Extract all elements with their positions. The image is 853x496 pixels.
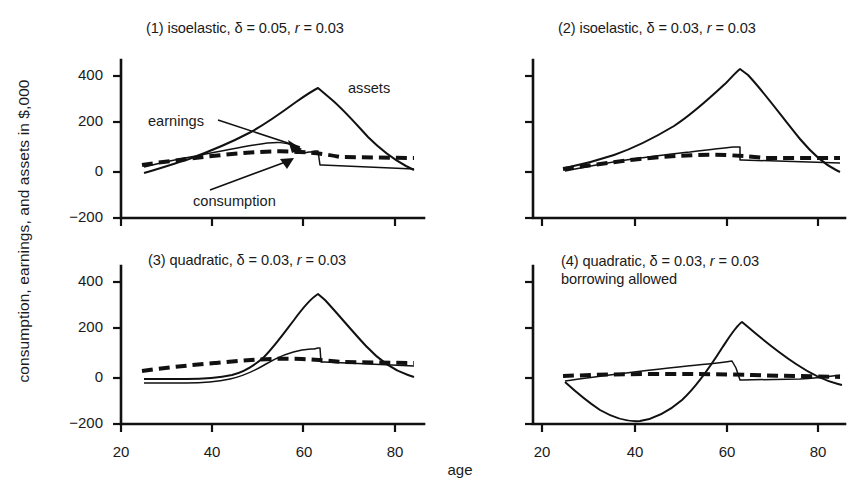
panel-2-axes xyxy=(525,60,845,226)
panel-4-axes xyxy=(525,266,845,432)
panel-3-axes xyxy=(113,266,424,432)
panel-2-consumption-line xyxy=(565,147,840,171)
figure-root: consumption, earnings, and assets in $,0… xyxy=(0,0,853,496)
annotation-consumption-leader xyxy=(210,158,294,190)
annotation-earnings-leader xyxy=(218,120,302,153)
chart-canvas xyxy=(0,0,853,496)
panel-4-assets-line xyxy=(565,322,842,421)
panel-1-earnings-line xyxy=(142,151,414,165)
